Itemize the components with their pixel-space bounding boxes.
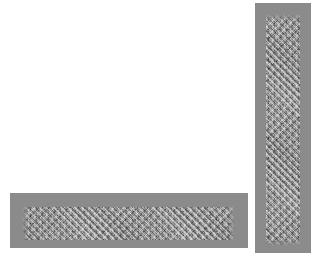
obscured-text-horizontal-value xyxy=(21,206,22,207)
noise-texture-vertical xyxy=(266,14,300,246)
obscured-text-band-vertical xyxy=(266,14,300,246)
obscured-text-band-horizontal xyxy=(22,207,235,240)
vertical-label-plate xyxy=(255,3,311,253)
image-canvas xyxy=(0,0,321,266)
horizontal-label-plate xyxy=(10,193,248,248)
obscured-text-vertical-value xyxy=(265,13,266,14)
noise-texture-horizontal xyxy=(22,207,235,240)
